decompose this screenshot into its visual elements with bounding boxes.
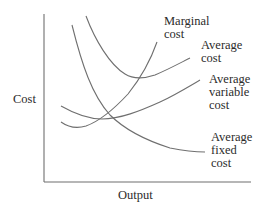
average-variable-cost-label: Average variable cost (209, 73, 250, 112)
average-cost-label: Average cost (201, 39, 242, 65)
average-fixed-cost-label: Average fixed cost (211, 131, 252, 170)
average-variable-cost-curve (61, 80, 200, 119)
x-axis-label: Output (118, 189, 153, 202)
y-axis-label: Cost (13, 93, 36, 106)
cost-curves-chart: Cost Output Marginal cost Average cost A… (0, 0, 265, 208)
